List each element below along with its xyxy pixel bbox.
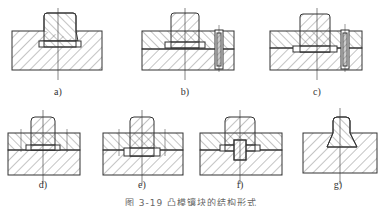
panel-label-f: f) [237,179,244,190]
panel-label-e: e) [138,179,146,190]
panel-label-d: d) [39,179,47,190]
panel-label-c: c) [313,86,321,97]
panel-label-a: a) [54,86,62,97]
panel-f-drawing [200,110,282,184]
panel-c-drawing [270,8,362,80]
panel-e-drawing [103,110,183,184]
figure-caption: 图 3-19 凸模镶块的结构形式 [125,196,257,206]
technical-drawing [0,0,382,206]
panel-d-drawing [8,110,80,184]
panel-a-drawing [12,8,102,80]
panel-g-drawing [303,108,377,184]
panel-label-g: g) [334,179,342,190]
panel-b-drawing [142,8,234,80]
panel-label-b: b) [181,86,189,97]
